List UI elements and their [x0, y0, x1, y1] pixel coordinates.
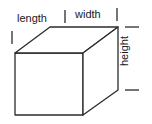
box-dimensions-figure: length width height	[0, 0, 152, 124]
height-dimension-label: height	[118, 22, 130, 66]
front-face-outline	[15, 53, 83, 115]
box-front-face	[15, 53, 83, 115]
length-dimension-label: length	[17, 12, 47, 24]
width-dimension-label: width	[75, 8, 101, 20]
